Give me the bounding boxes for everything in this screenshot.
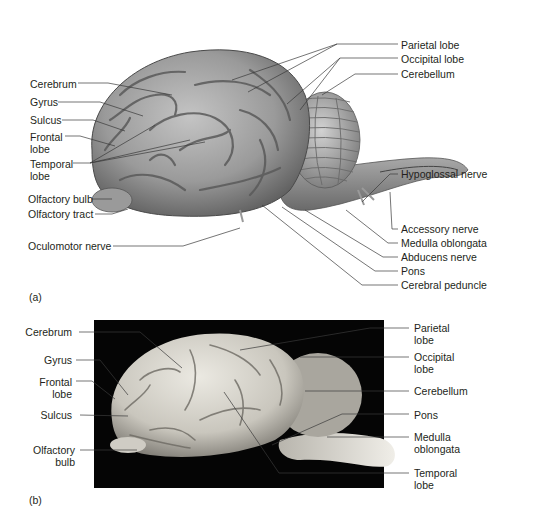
label-b-occipital-lobe: Occipital lobe [414,351,454,375]
brain-figure: Cerebrum Gyrus Sulcus Frontal lobe Tempo… [0,0,538,507]
label-b-sulcus: Sulcus [20,409,72,421]
label-b-cerebellum: Cerebellum [414,385,468,397]
label-b-parietal-lobe: Parietal lobe [414,322,450,346]
label-b-gyrus: Gyrus [20,354,72,366]
label-b-pons: Pons [414,409,438,421]
panel-b-tag: (b) [29,494,42,506]
label-b-olfactory-bulb: Olfactory bulb [20,444,75,468]
label-b-medulla-oblongata: Medulla oblongata [414,431,460,455]
label-b-cerebrum: Cerebrum [20,326,72,338]
label-b-frontal-lobe: Frontal lobe [20,376,72,400]
label-b-temporal-lobe: Temporal lobe [414,467,457,491]
